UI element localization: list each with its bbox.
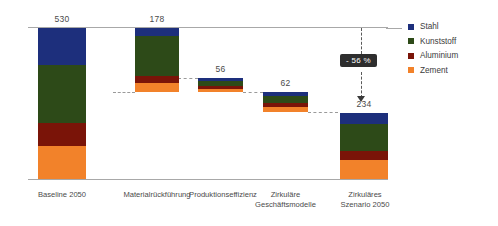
segment-stahl xyxy=(135,28,179,36)
legend: Stahl Kunststoff Aluminium Zement xyxy=(408,22,498,80)
category-label-zirkulaeres-szenario-2050: Zirkuläres Szenario 2050 xyxy=(324,190,406,211)
connector-1-2 xyxy=(113,92,135,93)
legend-label: Kunststoff xyxy=(420,37,456,46)
legend-label: Stahl xyxy=(420,22,439,31)
connector-3-4 xyxy=(243,92,263,93)
segment-aluminium xyxy=(135,76,179,83)
segment-zement xyxy=(198,89,243,92)
delta-arrow-icon xyxy=(357,96,365,102)
bar-materialrueckfuehrung[interactable] xyxy=(135,28,179,92)
segment-aluminium xyxy=(38,123,86,146)
segment-stahl xyxy=(340,113,388,124)
value-label-zirkulaere-geschaeftsmodelle: 62 xyxy=(263,78,308,88)
bar-zirkulaeres-szenario-2050[interactable] xyxy=(340,113,388,179)
legend-swatch-icon xyxy=(408,67,414,73)
segment-kunststoff xyxy=(263,96,308,103)
delta-dashed-line-upper xyxy=(361,28,362,54)
segment-kunststoff xyxy=(340,124,388,151)
legend-item-stahl[interactable]: Stahl xyxy=(408,22,498,31)
segment-zement xyxy=(38,146,86,179)
legend-swatch-icon xyxy=(408,53,414,59)
bar-produktionseffizienz[interactable] xyxy=(198,78,243,92)
legend-label: Aluminium xyxy=(420,51,458,60)
segment-zement xyxy=(340,160,388,179)
legend-swatch-icon xyxy=(408,38,414,44)
connector-2-3 xyxy=(178,78,198,79)
legend-swatch-icon xyxy=(408,24,414,30)
baseline-axis-line xyxy=(28,179,388,180)
segment-kunststoff xyxy=(38,65,86,123)
category-label-zirkulaere-geschaeftsmodelle: Zirkuläre Geschäftsmodelle xyxy=(243,190,328,211)
legend-item-zement[interactable]: Zement xyxy=(408,66,498,75)
category-label-baseline-2050: Baseline 2050 xyxy=(20,190,104,200)
bar-baseline-2050[interactable] xyxy=(38,28,86,179)
segment-zement xyxy=(135,83,179,92)
segment-kunststoff xyxy=(135,36,179,76)
segment-zement xyxy=(263,107,308,112)
value-label-materialrueckfuehrung: 178 xyxy=(135,14,179,24)
delta-badge: - 56 % xyxy=(340,54,377,67)
delta-dashed-line-lower xyxy=(361,72,362,98)
legend-item-aluminium[interactable]: Aluminium xyxy=(408,51,498,60)
value-label-baseline-2050: 530 xyxy=(38,14,86,24)
waterfall-chart: 530 178 56 62 xyxy=(0,0,498,226)
legend-label: Zement xyxy=(420,66,448,75)
connector-4-5 xyxy=(308,112,338,113)
bar-zirkulaere-geschaeftsmodelle[interactable] xyxy=(263,92,308,112)
legend-rule-line xyxy=(386,28,402,29)
segment-aluminium xyxy=(340,151,388,160)
segment-stahl xyxy=(38,28,86,65)
value-label-produktionseffizienz: 56 xyxy=(198,64,243,74)
plot-area: 530 178 56 62 xyxy=(0,0,400,226)
legend-item-kunststoff[interactable]: Kunststoff xyxy=(408,37,498,46)
